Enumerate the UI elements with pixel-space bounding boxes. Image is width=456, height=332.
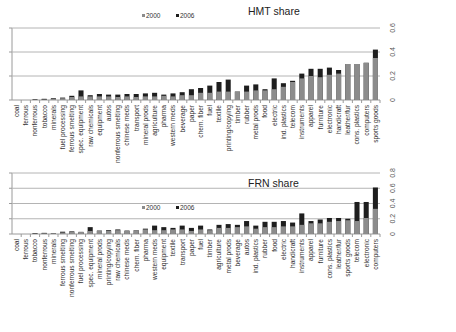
bar-2000 <box>78 96 83 100</box>
bar-2000 <box>88 231 93 234</box>
bar-2000 <box>51 233 56 234</box>
bar-2000 <box>318 77 323 100</box>
x-tick-label: spec. equipment <box>77 105 85 154</box>
x-tick-label: handicraft <box>289 239 296 268</box>
y-tick-label: 0 <box>389 98 396 102</box>
bar-2000 <box>336 221 341 234</box>
x-tick-label: chem. fiber <box>197 104 204 137</box>
x-tick-label: food <box>261 105 268 118</box>
x-tick-label: ferrous smelting <box>68 105 76 152</box>
bar-2000 <box>88 96 93 100</box>
legend-swatch-2006 <box>176 206 179 209</box>
bar-2000 <box>106 231 111 234</box>
bar-2000 <box>207 93 212 100</box>
bar-2000 <box>69 232 74 234</box>
bar-2000 <box>373 209 378 234</box>
x-tick-label: apparel <box>307 238 315 261</box>
x-tick-label: cons. plastics <box>326 238 334 278</box>
bar-2000 <box>336 74 341 100</box>
x-tick-label: electric <box>271 104 278 126</box>
bar-2000 <box>152 96 157 100</box>
bar-2000 <box>318 223 323 234</box>
x-tick-label: leather/fur <box>344 104 351 134</box>
x-tick-label: sports goods <box>372 104 380 142</box>
x-tick-label: agriculture <box>215 239 223 270</box>
y-tick-label: 0.2 <box>389 214 396 224</box>
x-tick-label: sports goods <box>344 238 352 276</box>
y-tick-label: 0.2 <box>389 71 396 81</box>
x-tick-label: furniture <box>317 105 324 130</box>
x-tick-label: rubber <box>261 238 268 258</box>
bar-2000 <box>134 230 139 234</box>
x-tick-label: ind. plastics <box>280 104 288 139</box>
x-tick-label: chinese meds <box>123 104 130 145</box>
x-tick-label: western meds <box>169 104 176 147</box>
bar-2000 <box>134 97 139 100</box>
x-tick-label: printing/copying <box>105 239 113 286</box>
x-tick-label: minerals <box>50 238 57 264</box>
legend-swatch-2006 <box>176 14 179 17</box>
x-tick-label: ind. plastics <box>252 238 260 273</box>
x-tick-label: beverage <box>234 239 242 267</box>
legend-label-2006: 2006 <box>180 12 195 19</box>
legend-label-2000: 2000 <box>146 12 161 19</box>
bar-2000 <box>106 96 111 100</box>
bar-2000 <box>42 233 47 234</box>
frn-share-chart: 00.20.40.60.8coalferroustobaccononferrou… <box>0 166 456 332</box>
bar-2000 <box>115 97 120 100</box>
x-tick-label: mineral prods <box>142 104 150 145</box>
bar-2000 <box>235 92 240 100</box>
bar-2000 <box>299 225 304 234</box>
bar-2000 <box>244 92 249 100</box>
bar-2000 <box>290 226 295 234</box>
bar-2000 <box>216 228 221 234</box>
bar-2000 <box>42 99 47 100</box>
x-tick-label: printing/copying <box>225 105 233 152</box>
bar-2000 <box>143 96 148 100</box>
bar-2000 <box>290 82 295 100</box>
x-tick-label: food <box>271 239 278 252</box>
bar-2000 <box>124 231 129 234</box>
x-tick-label: minerals <box>50 104 57 130</box>
x-tick-label: textile <box>215 105 222 123</box>
bar-2000 <box>189 95 194 100</box>
bar-2000 <box>97 231 102 234</box>
chart-title: HMT share <box>248 5 300 17</box>
x-tick-label: fuel <box>197 238 204 249</box>
x-tick-label: nonferrous smelting <box>68 239 76 297</box>
x-tick-label: coal <box>13 238 20 251</box>
legend-label-2000: 2000 <box>146 204 161 211</box>
bar-2000 <box>124 96 129 100</box>
x-tick-label: coal <box>13 104 20 117</box>
x-tick-label: leather/fur <box>335 238 342 268</box>
bar-2000 <box>327 222 332 234</box>
x-tick-label: western meds <box>151 238 158 281</box>
x-tick-label: instruments <box>298 238 305 273</box>
hmt-share-chart: 00.20.40.6coalferrousnonferroustobaccomi… <box>0 0 456 166</box>
x-tick-label: ferrous smelting <box>59 239 67 286</box>
bar-2000 <box>244 226 249 234</box>
bar-2000 <box>152 230 157 234</box>
bar-2000 <box>170 229 175 234</box>
x-tick-label: textile <box>169 239 176 257</box>
x-tick-label: electric <box>280 238 287 260</box>
x-tick-label: handicraft <box>335 105 342 134</box>
bar-2000 <box>345 220 350 234</box>
legend-label-2006: 2006 <box>180 204 195 211</box>
bar-2000 <box>143 229 148 234</box>
x-tick-label: pharma <box>160 105 168 128</box>
x-tick-label: electronic <box>363 238 370 267</box>
bar-2000 <box>180 229 185 234</box>
bar-2000 <box>253 229 258 234</box>
x-tick-label: nonferrous smelting <box>114 105 122 163</box>
bar-2000 <box>78 232 83 234</box>
bar-2000 <box>226 92 231 100</box>
bar-2000 <box>115 230 120 234</box>
bar-2000 <box>262 227 267 234</box>
x-tick-label: apparel <box>307 104 315 127</box>
bar-2000 <box>170 96 175 100</box>
x-tick-label: equipment <box>160 239 168 270</box>
x-tick-label: raw chemicals <box>87 104 94 146</box>
x-tick-label: ferrous <box>22 238 29 259</box>
bar-2000 <box>364 63 369 100</box>
